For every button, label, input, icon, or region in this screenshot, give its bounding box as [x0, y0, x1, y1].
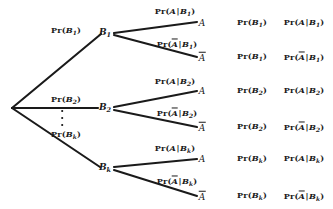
result-col2-bk-abar: Pr(A|Bk) — [284, 190, 325, 201]
edge-label-pr-b2: Pr(B2) — [51, 95, 81, 105]
result-col2-b2-a: Pr(A|B2) — [284, 86, 325, 96]
result-col1-b2-abar: Pr(B2) — [237, 122, 267, 132]
edge-label-pr-a-given-b1: Pr(A|B1) — [155, 7, 196, 17]
node-b1: B1 — [99, 28, 111, 38]
leaf-b1-a: A — [199, 19, 206, 28]
edge-b2-a — [114, 91, 197, 107]
edge-label-pr-abar-given-b2: Pr(A|B2) — [157, 107, 198, 118]
edge-label-pr-a-given-b2: Pr(A|B2) — [155, 77, 196, 87]
node-b2: B2 — [99, 103, 111, 113]
edge-label-pr-b1: Pr(B1) — [51, 26, 81, 36]
leaf-bk-a: A — [199, 155, 206, 164]
vertical-ellipsis — [61, 110, 63, 126]
edge-label-pr-a-given-bk: Pr(A|Bk) — [155, 144, 196, 154]
result-col2-bk-a: Pr(A|Bk) — [284, 154, 325, 164]
result-col2-b1-a: Pr(A|B1) — [284, 18, 325, 28]
leaf-b2-abar: A — [199, 122, 206, 133]
result-col2-b2-abar: Pr(A|B2) — [284, 121, 325, 132]
leaf-b2-a: A — [199, 87, 206, 96]
result-col1-bk-abar: Pr(Bk) — [237, 191, 267, 201]
leaf-b1-abar: A — [199, 52, 206, 63]
result-col2-b1-abar: Pr(A|B1) — [284, 51, 325, 62]
result-col1-b2-a: Pr(B2) — [237, 86, 267, 96]
edge-bk-a — [114, 159, 197, 167]
edge-label-pr-abar-given-bk: Pr(A|Bk) — [157, 175, 198, 186]
node-bk: Bk — [99, 163, 111, 173]
result-col1-b1-abar: Pr(B1) — [237, 52, 267, 62]
probability-tree-diagram: Pr(B1) B1 Pr(A|B1) A Pr(A|B1) A Pr(B1) P… — [0, 0, 333, 209]
edge-label-pr-bk: Pr(Bk) — [51, 130, 81, 140]
leaf-bk-abar: A — [199, 191, 206, 202]
result-col1-bk-a: Pr(Bk) — [237, 154, 267, 164]
edge-b1-a — [114, 22, 197, 33]
edge-label-pr-abar-given-b1: Pr(A|B1) — [157, 38, 198, 49]
result-col1-b1-a: Pr(B1) — [237, 18, 267, 28]
